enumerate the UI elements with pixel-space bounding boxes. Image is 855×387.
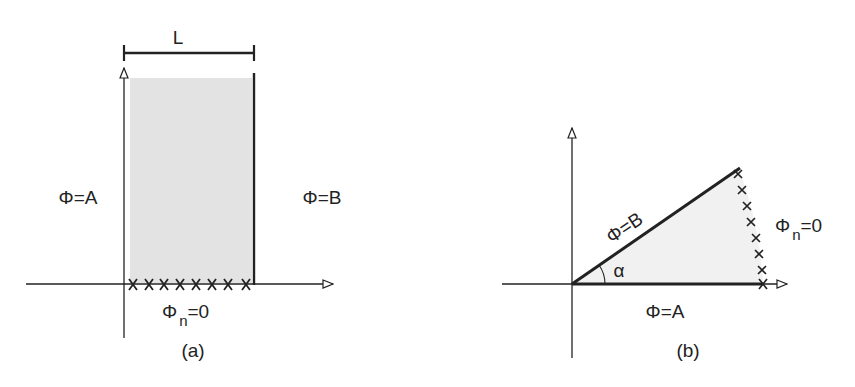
phi-symbol: Φ <box>775 215 790 236</box>
equals-zero: =0 <box>801 215 823 236</box>
lower-edge-label: Φ=A <box>646 301 685 322</box>
arc-boundary-label: Φn=0 <box>775 215 822 243</box>
bottom-boundary-label: Φn=0 <box>162 301 209 329</box>
panel-a: L Φ=A Φ=B Φn=0 (a) <box>26 27 341 361</box>
length-label: L <box>173 27 184 48</box>
panel-b: Φ=B α Φn=0 Φ=A (b) <box>502 128 822 361</box>
diagram-canvas: L Φ=A Φ=B Φn=0 (a) <box>0 0 855 387</box>
caption-b: (b) <box>676 340 699 361</box>
angle-label: α <box>614 260 625 281</box>
caption-a: (a) <box>181 340 204 361</box>
subscript: n <box>792 226 800 243</box>
equals-zero: =0 <box>188 301 210 322</box>
phi-symbol: Φ <box>162 301 177 322</box>
subscript: n <box>179 312 187 329</box>
left-boundary-label: Φ=A <box>59 187 98 208</box>
domain-rectangle <box>130 78 252 283</box>
right-boundary-label: Φ=B <box>303 187 342 208</box>
length-dimension-bar <box>124 45 254 61</box>
